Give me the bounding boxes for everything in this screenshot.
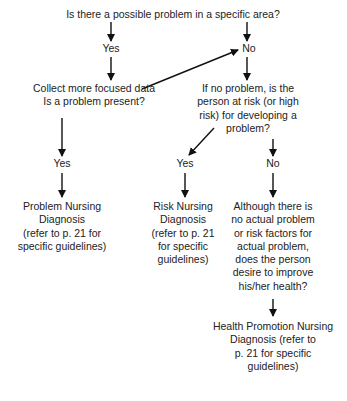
improve-question-line: desire to improve bbox=[231, 266, 314, 279]
node-improve-health-question: Although there is no actual problem or r… bbox=[231, 200, 314, 293]
improve-question-line: does the person bbox=[231, 253, 314, 266]
risk-dx-line: Risk Nursing bbox=[151, 200, 214, 213]
node-risk-question: If no problem, is the person at risk (or… bbox=[197, 82, 299, 135]
improve-question-line: actual problem, bbox=[231, 240, 314, 253]
risk-question-line: person at risk (or high bbox=[197, 95, 299, 108]
health-promotion-line: p. 21 for specific bbox=[213, 347, 333, 360]
risk-question-line: If no problem, is the bbox=[197, 82, 299, 95]
node-collect-data: Collect more focused data Is a problem p… bbox=[33, 82, 155, 109]
problem-dx-line: Problem Nursing bbox=[18, 200, 107, 213]
label-no-possible-problem: No bbox=[242, 42, 255, 55]
node-problem-nursing-diagnosis: Problem Nursing Diagnosis (refer to p. 2… bbox=[18, 200, 107, 253]
improve-question-line: his/her health? bbox=[231, 280, 314, 293]
node-health-promotion-diagnosis: Health Promotion Nursing Diagnosis (refe… bbox=[213, 320, 333, 373]
improve-question-line: or risk factors for bbox=[231, 227, 314, 240]
health-promotion-line: Diagnosis (refer to bbox=[213, 333, 333, 346]
improve-question-line: Although there is bbox=[231, 200, 314, 213]
risk-question-line: problem? bbox=[197, 122, 299, 135]
risk-question-line: risk) for developing a bbox=[197, 109, 299, 122]
problem-dx-line: Diagnosis bbox=[18, 213, 107, 226]
problem-dx-line: specific guidelines) bbox=[18, 240, 107, 253]
collect-data-line: Is a problem present? bbox=[33, 95, 155, 108]
risk-dx-line: (refer to p. 21 bbox=[151, 227, 214, 240]
health-promotion-line: guidelines) bbox=[213, 360, 333, 373]
problem-dx-line: (refer to p. 21 for bbox=[18, 227, 107, 240]
label-no-at-risk: No bbox=[266, 157, 279, 170]
label-yes-at-risk: Yes bbox=[176, 157, 193, 170]
node-risk-nursing-diagnosis: Risk Nursing Diagnosis (refer to p. 21 f… bbox=[151, 200, 214, 266]
health-promotion-line: Health Promotion Nursing bbox=[213, 320, 333, 333]
label-yes-problem-present: Yes bbox=[53, 157, 70, 170]
risk-dx-line: for specific bbox=[151, 240, 214, 253]
collect-data-line: Collect more focused data bbox=[33, 82, 155, 95]
label-yes-possible-problem: Yes bbox=[102, 42, 119, 55]
risk-dx-line: guidelines) bbox=[151, 253, 214, 266]
question-possible-problem: Is there a possible problem in a specifi… bbox=[66, 8, 280, 21]
risk-dx-line: Diagnosis bbox=[151, 213, 214, 226]
improve-question-line: no actual problem bbox=[231, 213, 314, 226]
